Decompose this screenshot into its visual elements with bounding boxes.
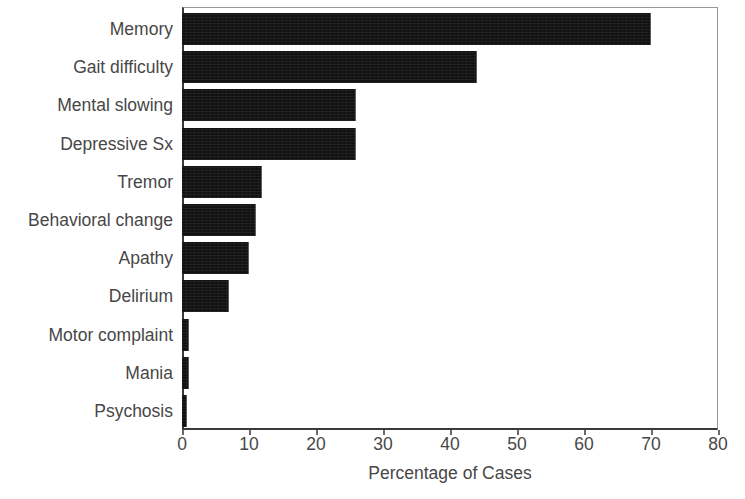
x-tick-label: 50	[507, 434, 526, 455]
bar	[182, 357, 189, 389]
x-tick-label: 20	[306, 434, 325, 455]
x-tick-label: 80	[708, 434, 727, 455]
category-label: Mental slowing	[0, 89, 178, 121]
bar	[182, 319, 189, 351]
category-label: Behavioral change	[0, 204, 178, 236]
bar	[182, 242, 249, 274]
category-label: Memory	[0, 13, 178, 45]
x-tick-label: 60	[574, 434, 593, 455]
category-label: Gait difficulty	[0, 51, 178, 83]
bar	[182, 204, 256, 236]
bar	[182, 89, 356, 121]
category-label: Delirium	[0, 280, 178, 312]
bar	[182, 51, 477, 83]
category-axis-labels: MemoryGait difficultyMental slowingDepre…	[0, 7, 178, 430]
x-axis-title: Percentage of Cases	[182, 463, 718, 484]
category-label: Apathy	[0, 242, 178, 274]
category-label: Mania	[0, 357, 178, 389]
bar-chart: MemoryGait difficultyMental slowingDepre…	[0, 0, 745, 499]
bars-layer	[182, 7, 718, 430]
bar	[182, 128, 356, 160]
x-tick-label: 10	[239, 434, 258, 455]
category-label: Psychosis	[0, 395, 178, 427]
x-tick-label: 70	[641, 434, 660, 455]
category-label: Depressive Sx	[0, 128, 178, 160]
bar	[182, 166, 262, 198]
x-tick-label: 0	[177, 434, 187, 455]
bar	[182, 13, 651, 45]
x-tick-label: 30	[373, 434, 392, 455]
bar	[182, 280, 229, 312]
category-label: Motor complaint	[0, 319, 178, 351]
category-label: Tremor	[0, 166, 178, 198]
bar	[182, 395, 187, 427]
x-tick-label: 40	[440, 434, 459, 455]
